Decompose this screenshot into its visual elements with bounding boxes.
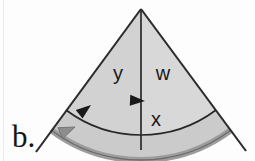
panel-label: b. <box>12 119 35 154</box>
figure-panel-b: y w x b. <box>0 0 255 161</box>
label-left-sector: y <box>113 62 123 84</box>
sector-diagram: y w x b. <box>0 0 255 161</box>
label-right-sector: w <box>155 62 171 84</box>
label-lower-band: x <box>151 108 161 130</box>
left-half-shade <box>66 9 141 135</box>
